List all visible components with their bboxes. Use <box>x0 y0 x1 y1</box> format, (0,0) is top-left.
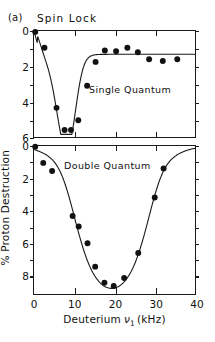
y-axis-title: % Proton Destruction <box>0 150 11 266</box>
tick-y-top-0-right <box>195 31 199 32</box>
tick-y-bot-4-right <box>195 211 199 212</box>
tick-y-top-2-right <box>195 67 199 68</box>
data-point <box>93 59 99 65</box>
data-point <box>113 48 119 54</box>
data-point <box>121 275 127 281</box>
data-point <box>49 168 55 174</box>
tick-y-bot-0-right <box>195 146 199 147</box>
ylabel-top-0: 0 <box>22 26 29 37</box>
tick-y-bot-8-right <box>195 276 199 277</box>
xlabel-40: 40 <box>190 299 203 310</box>
panel-tag: (a) <box>8 12 23 23</box>
figure-container: (a) Spin Lock % Proton Destruction 0 2 4… <box>0 0 215 342</box>
data-point <box>62 127 68 133</box>
xlabel-30: 30 <box>150 299 163 310</box>
data-point <box>85 240 91 246</box>
x-axis-title-main: Deuterium <box>63 313 121 325</box>
tick-y-bot-1-right <box>195 162 199 163</box>
ylabel-top-2: 2 <box>22 62 29 73</box>
data-point <box>152 195 158 201</box>
data-point <box>101 280 107 286</box>
data-point <box>135 250 141 256</box>
data-point <box>32 144 38 150</box>
ylabel-bot-8: 8 <box>22 271 29 282</box>
data-point <box>75 117 81 123</box>
data-point <box>124 45 130 51</box>
tick-y-top-3-right <box>195 85 199 86</box>
tick-y-bot-7-right <box>195 260 199 261</box>
tick-y-bot-5-right <box>195 228 199 229</box>
data-point <box>102 47 108 53</box>
x-axis-title-sub: 1 <box>130 319 135 328</box>
tick-y-top-4-right <box>195 103 199 104</box>
tick-y-top-6 <box>30 138 34 139</box>
x-axis-title: Deuteriumν1(kHz) <box>33 313 196 328</box>
plot-double-quantum: 0 2 4 6 8 0 10 20 30 40 <box>33 145 196 295</box>
xlabel-0: 0 <box>31 299 38 310</box>
ylabel-bot-0: 0 <box>22 141 29 152</box>
ylabel-bot-4: 4 <box>22 206 29 217</box>
data-point <box>111 283 117 289</box>
plot-single-quantum: 0 2 4 6 Single Quantum <box>33 30 196 138</box>
tick-y-top-5-right <box>195 121 199 122</box>
data-point <box>42 45 48 51</box>
xlabel-10: 10 <box>68 299 81 310</box>
tick-y-bot-3-right <box>195 195 199 196</box>
figure-title: Spin Lock <box>37 12 97 24</box>
data-point <box>160 58 166 64</box>
data-point <box>135 49 141 55</box>
x-axis-title-unit: (kHz) <box>137 313 166 325</box>
tick-y-bot-6-right <box>195 244 199 245</box>
ylabel-top-4: 4 <box>22 98 29 109</box>
annotation-single-quantum: Single Quantum <box>89 84 171 95</box>
ylabel-bot-2: 2 <box>22 173 29 184</box>
ylabel-bot-6: 6 <box>22 239 29 250</box>
tick-y-bot-2-right <box>195 179 199 180</box>
fit-curve <box>34 31 195 134</box>
data-point <box>161 166 167 172</box>
tick-y-top-1-right <box>195 49 199 50</box>
data-point <box>70 213 76 219</box>
annotation-double-quantum: Double Quantum <box>64 160 151 171</box>
data-point <box>174 56 180 62</box>
data-point <box>40 160 46 166</box>
data-point <box>54 105 60 111</box>
data-point <box>68 127 74 133</box>
data-point <box>146 56 152 62</box>
data-point <box>76 223 82 229</box>
data-point <box>32 29 38 35</box>
data-point <box>92 264 98 270</box>
xlabel-20: 20 <box>109 299 122 310</box>
